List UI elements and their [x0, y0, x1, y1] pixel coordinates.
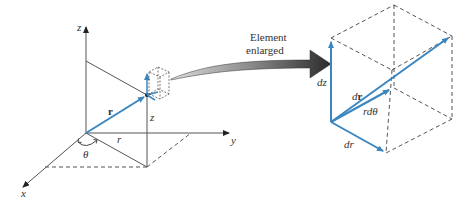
displacement-label: dr	[352, 90, 363, 102]
enlarged-element: dz dr rdθ dr	[317, 5, 452, 153]
y-axis-label: y	[230, 134, 236, 146]
cylindrical-element-diagram: z y x θ r z r	[0, 0, 462, 201]
height-label: z	[149, 111, 155, 123]
small-rdtheta-vector	[147, 95, 155, 100]
caption-line-1: Element	[250, 31, 287, 43]
x-axis-label: x	[20, 187, 26, 199]
caption-line-2: enlarged	[246, 44, 284, 56]
left-figure: z y x θ r z r	[20, 21, 236, 199]
position-vector-r	[86, 97, 144, 133]
z-projection-line	[86, 61, 147, 95]
dz-label: dz	[317, 76, 328, 88]
theta-label: θ	[83, 148, 89, 160]
z-axis-label: z	[76, 21, 82, 33]
dr-label: dr	[344, 138, 355, 150]
displacement-vector-dr	[331, 38, 448, 122]
position-vector-label: r	[108, 105, 113, 117]
rdtheta-label: rdθ	[363, 105, 378, 117]
dashed-y-projection	[147, 133, 191, 167]
dr-vector	[331, 122, 383, 151]
radius-label: r	[117, 133, 122, 145]
x-axis	[23, 133, 86, 187]
